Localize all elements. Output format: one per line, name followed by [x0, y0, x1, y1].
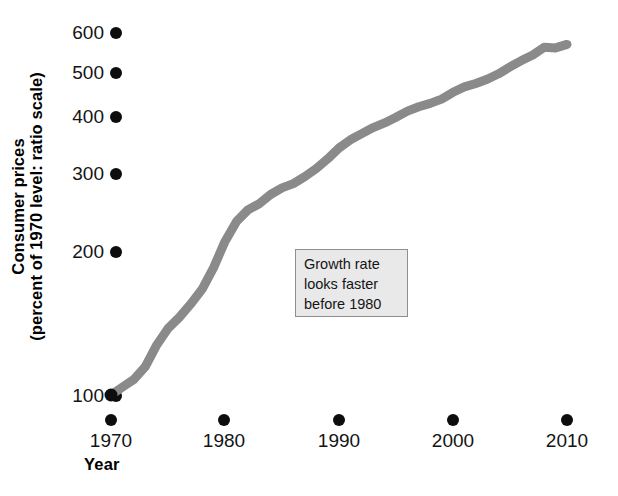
- x-axis-title: Year: [84, 455, 120, 474]
- series-line-consumer-prices: [111, 44, 567, 395]
- x-tick-dot-1970: [105, 414, 117, 426]
- x-tick-1990: 1990: [299, 414, 379, 460]
- x-tick-label-2000: 2000: [413, 430, 493, 452]
- x-tick-1970: 1970: [71, 414, 151, 460]
- x-tick-dot-2000: [447, 414, 459, 426]
- x-tick-label-1990: 1990: [299, 430, 379, 452]
- x-tick-1980: 1980: [184, 414, 264, 460]
- x-tick-2010: 2010: [527, 414, 607, 460]
- annotation-line-1: Growth rate: [304, 255, 400, 275]
- x-tick-2000: 2000: [413, 414, 493, 460]
- x-tick-label-2010: 2010: [527, 430, 607, 452]
- x-tick-dot-2010: [561, 414, 573, 426]
- x-tick-label-1980: 1980: [184, 430, 264, 452]
- annotation-growth-rate: Growth rate looks faster before 1980: [295, 249, 408, 317]
- chart-figure: Consumer prices (percent of 1970 level: …: [0, 0, 618, 496]
- annotation-line-3: before 1980: [304, 295, 400, 315]
- x-tick-dot-1980: [218, 414, 230, 426]
- x-tick-dot-1990: [333, 414, 345, 426]
- annotation-line-2: looks faster: [304, 275, 400, 295]
- series-start-marker: [105, 389, 118, 402]
- x-tick-label-1970: 1970: [71, 430, 151, 452]
